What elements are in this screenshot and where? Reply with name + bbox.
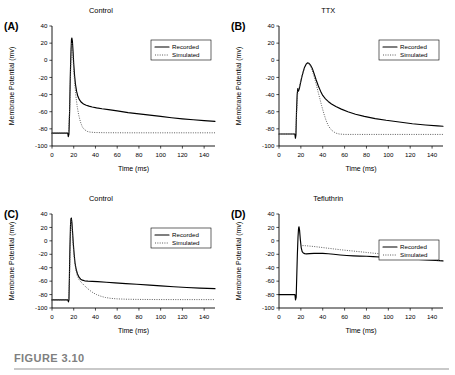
y-tick-label: -60 — [266, 277, 276, 284]
panel-d-plot: (D)Tefluthrin40200-20-40-60-80-100020406… — [227, 188, 455, 350]
y-tick-label: 0 — [271, 237, 275, 244]
y-tick-label: -100 — [35, 142, 48, 149]
panel-title: Control — [89, 6, 113, 15]
y-tick-label: 20 — [41, 39, 48, 46]
legend-label: Recorded — [400, 243, 427, 250]
y-tick-label: -20 — [266, 74, 276, 81]
panel-c-plot: (C)Control40200-20-40-60-80-100020406080… — [0, 188, 227, 350]
y-tick-label: 40 — [41, 210, 48, 217]
y-tick-label: -100 — [35, 304, 48, 311]
x-tick-label: 40 — [319, 151, 326, 158]
x-tick-label: 0 — [50, 313, 54, 320]
x-axis-title: Time (ms) — [345, 327, 376, 335]
y-tick-label: -80 — [39, 125, 49, 132]
panel-letter: (C) — [4, 208, 19, 220]
y-tick-label: -80 — [266, 291, 276, 298]
x-axis-title: Time (ms) — [118, 165, 149, 173]
x-tick-label: 120 — [177, 151, 188, 158]
y-axis-title: Membrane Potential (mv) — [235, 47, 243, 126]
panel-letter: (B) — [231, 20, 246, 32]
x-tick-label: 0 — [277, 313, 281, 320]
y-tick-label: 40 — [41, 22, 48, 29]
x-tick-label: 120 — [177, 313, 188, 320]
y-tick-label: 20 — [41, 224, 48, 231]
y-tick-label: -40 — [39, 91, 49, 98]
y-tick-label: -40 — [39, 264, 49, 271]
panel-d: (D)Tefluthrin40200-20-40-60-80-100020406… — [227, 188, 455, 350]
x-tick-label: 60 — [341, 313, 348, 320]
x-tick-label: 40 — [319, 313, 326, 320]
legend-label: Recorded — [172, 43, 199, 50]
figure-root: (A)Control40200-20-40-60-80-100020406080… — [0, 0, 455, 375]
y-tick-label: 40 — [268, 22, 275, 29]
x-tick-label: 0 — [277, 151, 281, 158]
y-axis-title: Membrane Potential (mv) — [8, 47, 16, 126]
x-tick-label: 60 — [114, 313, 121, 320]
legend-label: Simulated — [400, 251, 428, 258]
caption-divider — [14, 368, 449, 370]
y-tick-label: 0 — [44, 237, 48, 244]
panel-b: (B)TTX40200-20-40-60-80-1000204060801001… — [227, 0, 455, 188]
panel-a-plot: (A)Control40200-20-40-60-80-100020406080… — [0, 0, 227, 188]
y-tick-label: 20 — [268, 224, 275, 231]
x-tick-label: 120 — [405, 313, 416, 320]
x-tick-label: 140 — [199, 313, 210, 320]
panel-a: (A)Control40200-20-40-60-80-100020406080… — [0, 0, 227, 188]
y-tick-label: 0 — [44, 56, 48, 63]
x-tick-label: 20 — [297, 313, 304, 320]
figure-caption: FIGURE 3.10 — [0, 350, 455, 375]
x-tick-label: 100 — [383, 151, 394, 158]
y-tick-label: -80 — [266, 125, 276, 132]
x-tick-label: 60 — [114, 151, 121, 158]
y-tick-label: -60 — [266, 108, 276, 115]
y-tick-label: -60 — [39, 277, 49, 284]
x-tick-label: 100 — [156, 151, 167, 158]
y-axis-title: Membrane Potential (mv) — [8, 222, 16, 301]
y-tick-label: -20 — [39, 74, 49, 81]
x-axis-title: Time (ms) — [118, 327, 149, 335]
x-tick-label: 20 — [70, 313, 77, 320]
x-tick-label: 140 — [427, 151, 438, 158]
panel-title: Control — [89, 194, 113, 203]
x-tick-label: 80 — [135, 151, 142, 158]
x-tick-label: 140 — [427, 313, 438, 320]
x-tick-label: 120 — [405, 151, 416, 158]
legend-label: Simulated — [400, 51, 428, 58]
panel-title: Tefluthrin — [313, 194, 343, 203]
x-tick-label: 140 — [199, 151, 210, 158]
y-tick-label: -40 — [266, 91, 276, 98]
y-axis-title: Membrane Potential (mv) — [235, 222, 243, 301]
x-tick-label: 80 — [363, 151, 370, 158]
x-tick-label: 80 — [135, 313, 142, 320]
x-tick-label: 100 — [383, 313, 394, 320]
panel-grid: (A)Control40200-20-40-60-80-100020406080… — [0, 0, 455, 350]
legend-label: Recorded — [400, 43, 427, 50]
x-tick-label: 0 — [50, 151, 54, 158]
trace-recorded — [279, 227, 443, 300]
y-tick-label: 40 — [268, 210, 275, 217]
legend-label: Simulated — [172, 51, 200, 58]
panel-title: TTX — [321, 6, 335, 15]
y-tick-label: -20 — [39, 250, 49, 257]
panel-c: (C)Control40200-20-40-60-80-100020406080… — [0, 188, 227, 350]
panel-letter: (D) — [231, 208, 246, 220]
y-tick-label: 20 — [268, 39, 275, 46]
x-tick-label: 20 — [297, 151, 304, 158]
x-tick-label: 20 — [70, 151, 77, 158]
figure-caption-label: FIGURE 3.10 — [14, 352, 84, 364]
panel-b-plot: (B)TTX40200-20-40-60-80-1000204060801001… — [227, 0, 455, 188]
y-tick-label: -40 — [266, 264, 276, 271]
x-tick-label: 60 — [341, 151, 348, 158]
y-tick-label: -100 — [262, 142, 275, 149]
y-tick-label: -60 — [39, 108, 49, 115]
x-tick-label: 40 — [92, 313, 99, 320]
y-tick-label: -20 — [266, 250, 276, 257]
legend-label: Recorded — [172, 231, 199, 238]
legend-label: Simulated — [172, 239, 200, 246]
x-tick-label: 100 — [156, 313, 167, 320]
y-tick-label: -80 — [39, 291, 49, 298]
x-tick-label: 40 — [92, 151, 99, 158]
x-tick-label: 80 — [363, 313, 370, 320]
panel-letter: (A) — [4, 20, 19, 32]
y-tick-label: 0 — [271, 56, 275, 63]
